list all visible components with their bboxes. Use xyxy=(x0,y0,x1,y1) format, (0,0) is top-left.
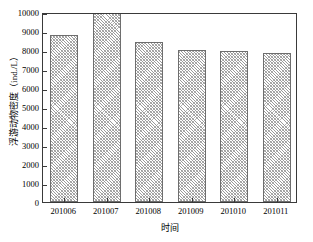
y-axis-tick-mark xyxy=(43,52,47,53)
bar xyxy=(263,53,291,202)
bar xyxy=(178,50,206,202)
y-axis-tick-labels: 0100020003000400050006000700080009000100… xyxy=(8,0,39,242)
y-axis-tick-mark xyxy=(43,128,47,129)
plot-area xyxy=(42,13,297,203)
x-axis-tick-labels: 201006201007201008201009201010201011 xyxy=(42,206,297,220)
y-axis-tick-mark xyxy=(43,71,47,72)
y-axis-tick-mark xyxy=(43,185,47,186)
y-axis-tick-mark xyxy=(43,109,47,110)
x-axis-title: 时间 xyxy=(42,222,297,234)
x-axis-tick-mark xyxy=(107,198,108,202)
y-axis-tick-label: 10000 xyxy=(8,9,39,18)
x-axis-tick-mark xyxy=(149,198,150,202)
y-axis-tick-label: 1000 xyxy=(8,180,39,189)
y-axis-tick-label: 8000 xyxy=(8,47,39,56)
bar xyxy=(50,35,78,202)
y-axis-tick-label: 3000 xyxy=(8,142,39,151)
y-axis-tick-mark xyxy=(43,166,47,167)
x-axis-tick-label: 201008 xyxy=(127,206,170,216)
x-axis-tick-label: 201009 xyxy=(170,206,213,216)
x-axis-tick-label: 201006 xyxy=(42,206,85,216)
x-axis-tick-label: 201010 xyxy=(212,206,255,216)
y-axis-tick-label: 4000 xyxy=(8,123,39,132)
y-axis-tick-label: 2000 xyxy=(8,161,39,170)
y-axis-tick-label: 5000 xyxy=(8,104,39,113)
x-axis-tick-label: 201011 xyxy=(255,206,298,216)
x-axis-tick-mark xyxy=(192,198,193,202)
x-axis-tick-mark xyxy=(64,198,65,202)
y-axis-tick-mark xyxy=(43,14,47,15)
y-axis-tick-label: 0 xyxy=(8,199,39,208)
y-axis-tick-mark xyxy=(43,33,47,34)
x-axis-tick-label: 201007 xyxy=(85,206,128,216)
y-axis-tick-label: 9000 xyxy=(8,28,39,37)
x-axis-tick-mark xyxy=(277,198,278,202)
y-axis-tick-mark xyxy=(43,147,47,148)
y-axis-tick-label: 7000 xyxy=(8,66,39,75)
x-axis-tick-mark xyxy=(234,198,235,202)
bar xyxy=(220,51,248,202)
bar-chart: 浮游动物密度（ind./L） 0100020003000400050006000… xyxy=(0,0,313,242)
bar xyxy=(93,13,121,202)
bar xyxy=(135,42,163,202)
y-axis-tick-label: 6000 xyxy=(8,85,39,94)
y-axis-tick-mark xyxy=(43,90,47,91)
